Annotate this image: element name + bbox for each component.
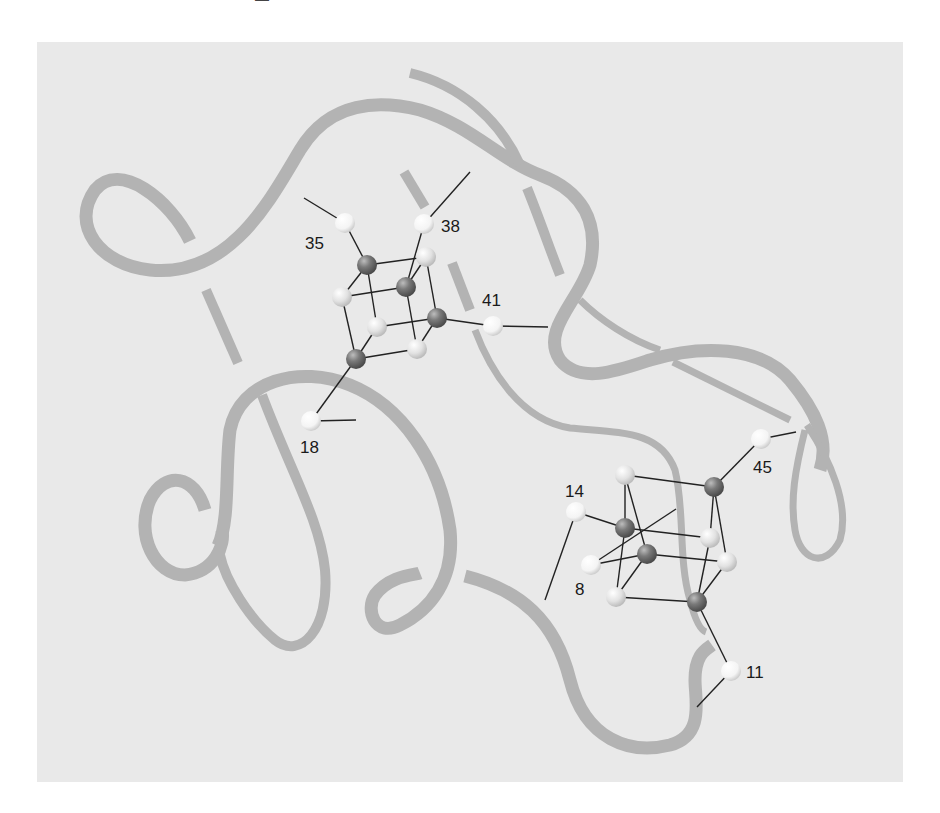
ribbon-segment-lower-loop [218, 376, 451, 628]
sulfur-atom [367, 317, 387, 337]
ligand-sulfur-41 [483, 316, 503, 336]
sulfur-atom [606, 587, 626, 607]
ribbon-segment-dash-41 [452, 263, 470, 310]
residue-label-38: 38 [441, 217, 460, 236]
sulfur-atom [700, 528, 720, 548]
ligand-sulfur-18 [301, 411, 321, 431]
protein-diagram: 35 38 41 18 [0, 0, 940, 813]
ligand-sulfur-14 [566, 502, 586, 522]
residue-label-11: 11 [746, 663, 764, 682]
ribbon-segment-mid-arc [527, 188, 560, 275]
ribbon-segment-dash-38 [404, 172, 425, 207]
iron-atom [357, 255, 377, 275]
sulfur-atom [615, 465, 635, 485]
iron-atom [396, 277, 416, 297]
iron-atom [637, 544, 657, 564]
ligand-sulfur-35 [335, 213, 355, 233]
ligand-sulfur-45 [751, 429, 771, 449]
ribbon-segment-left-curl [145, 480, 223, 575]
iron-atom [346, 349, 366, 369]
ligand-sulfur-11 [721, 661, 741, 681]
residue-label-41: 41 [482, 291, 501, 310]
iron-atom [615, 518, 635, 538]
sulfur-atom [332, 287, 352, 307]
fe4s4-cluster-1: 35 38 41 18 [300, 172, 548, 457]
ribbon-segment-top-s [86, 105, 823, 470]
residue-label-14: 14 [565, 482, 584, 501]
iron-atom [704, 477, 724, 497]
ribbon-segment-left-dash-1 [206, 290, 238, 363]
ribbon-segment-upper-right-arc [580, 300, 660, 350]
fe4s4-cluster-2: 45 14 8 11 [545, 429, 796, 707]
residue-label-45: 45 [753, 458, 772, 477]
iron-atom [427, 308, 447, 328]
sulfur-atom [717, 552, 737, 572]
ribbon-segment-bottom-wave [465, 576, 712, 748]
ribbon-segment-right-hook [793, 425, 843, 558]
residue-label-35: 35 [305, 234, 324, 253]
ligand-sulfur-8 [581, 555, 601, 575]
protein-ribbon [86, 73, 843, 748]
sulfur-atom [407, 339, 427, 359]
residue-label-18: 18 [300, 438, 319, 457]
sulfur-atom [416, 247, 436, 267]
ligand-sulfur-38 [414, 214, 434, 234]
iron-atom [687, 592, 707, 612]
residue-label-8: 8 [575, 580, 584, 599]
